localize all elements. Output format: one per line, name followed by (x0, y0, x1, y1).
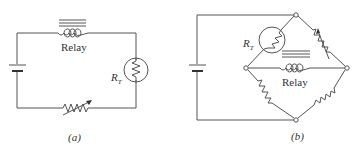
node-top (294, 13, 298, 17)
thermistor-icon-b (248, 16, 294, 66)
relay-icon-b (248, 51, 345, 72)
relay-label-b: Relay (282, 76, 308, 88)
variable-resistor-icon-a (60, 100, 92, 115)
thermistor-label-a: RT (110, 71, 123, 86)
caption-b: (b) (291, 130, 304, 143)
variable-resistor-icon-b (298, 16, 345, 66)
node-bottom (294, 118, 298, 122)
thermistor-label-b: RT (242, 37, 255, 52)
thermistor-icon-a (124, 58, 148, 82)
relay-icon-a (58, 20, 88, 37)
node-left (244, 66, 248, 70)
circuit-figure: Relay RT (a) (0, 0, 359, 152)
panel-b: RT Relay (189, 13, 349, 143)
battery-icon-a (9, 65, 26, 71)
node-right (345, 66, 349, 70)
battery-icon-b (189, 65, 206, 71)
panel-a: Relay RT (a) (9, 20, 148, 144)
caption-a: (a) (68, 131, 81, 144)
relay-label-a: Relay (61, 41, 87, 53)
